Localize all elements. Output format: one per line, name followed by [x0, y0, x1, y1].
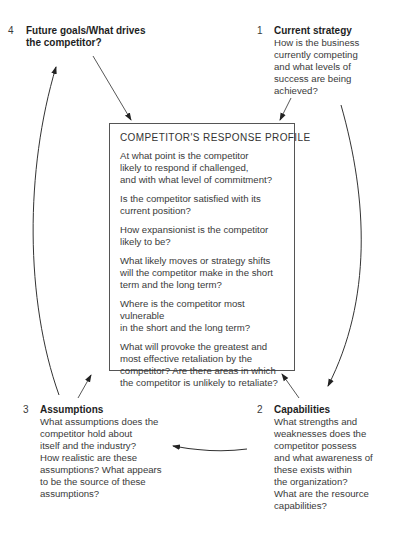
profile-question: At what point is the competitor likely t… [120, 150, 286, 186]
arc-capabilities-to-assumptions [173, 446, 247, 451]
profile-question: Is the competitor satisfied with its cur… [120, 193, 286, 217]
competitor-response-profile-box: COMPETITOR'S RESPONSE PROFILE At what po… [109, 123, 295, 371]
node-number: 2 [257, 404, 263, 416]
node-title: Assumptions [40, 404, 162, 416]
profile-question: Where is the competitor most vulnerable … [120, 298, 286, 334]
node-title: Future goals/What drives the competitor? [26, 25, 145, 49]
arrow-strategy-to-profile [280, 98, 291, 120]
node-title: Current strategy [274, 25, 359, 37]
node-number: 4 [8, 25, 14, 37]
profile-question: What likely moves or strategy shifts wil… [120, 255, 286, 291]
arrow-assumptions-to-profile [78, 375, 91, 398]
node-description: How is the business currently competing … [274, 37, 359, 97]
arc-strategy-to-capabilities [328, 105, 361, 386]
node-title: Capabilities [274, 404, 373, 416]
arc-assumptions-to-goals [33, 67, 59, 395]
node-description: What assumptions does the competitor hol… [40, 416, 162, 500]
profile-question: How expansionist is the competitor likel… [120, 224, 286, 248]
profile-question: What will provoke the greatest and most … [120, 341, 286, 389]
profile-title: COMPETITOR'S RESPONSE PROFILE [120, 132, 286, 143]
node-number: 1 [257, 25, 263, 37]
node-number: 3 [23, 404, 29, 416]
arrow-goals-to-profile [93, 56, 131, 120]
node-description: What strengths and weaknesses does the c… [274, 416, 373, 512]
